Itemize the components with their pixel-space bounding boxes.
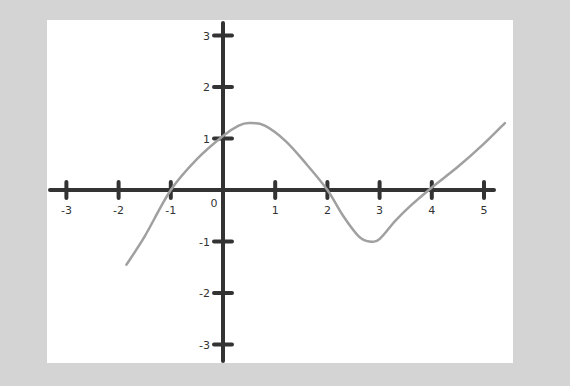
x-tick-label: 2 (324, 204, 331, 217)
origin-label: 0 (211, 197, 218, 210)
x-tick-label: 1 (272, 204, 279, 217)
x-tick-label: 5 (481, 204, 488, 217)
function-curve (126, 123, 504, 265)
y-tick-label: 1 (203, 133, 210, 146)
x-tick-label: -2 (113, 204, 124, 217)
x-tick-label: -1 (165, 204, 176, 217)
x-tick-label: 3 (376, 204, 383, 217)
x-tick-label: 4 (428, 204, 435, 217)
y-tick-label: 3 (203, 30, 210, 43)
y-tick-label: -2 (199, 287, 210, 300)
chart-plot: -3-2-112345321-1-2-30 (0, 0, 570, 386)
x-tick-label: -3 (61, 204, 72, 217)
y-tick-label: -3 (199, 339, 210, 352)
y-tick-label: -1 (199, 236, 210, 249)
y-tick-label: 2 (203, 81, 210, 94)
